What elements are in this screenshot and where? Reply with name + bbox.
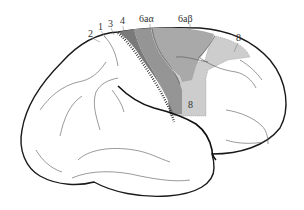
label-area-8-lower: 8: [188, 99, 193, 110]
label-area-2: 2: [88, 28, 93, 39]
label-area-6aalpha: 6aα: [139, 13, 154, 24]
label-area-3: 3: [108, 18, 113, 29]
label-area-8-top: 8: [236, 32, 241, 43]
label-area-1: 1: [98, 21, 103, 32]
brain-diagram: 2 1 3 4 6aα 6aβ 8 8: [0, 0, 304, 210]
label-area-6abeta: 6aβ: [178, 13, 193, 24]
label-area-4: 4: [120, 15, 125, 26]
